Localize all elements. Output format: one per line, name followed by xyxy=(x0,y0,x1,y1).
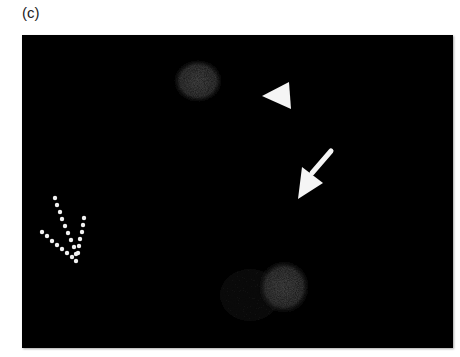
upper-blob xyxy=(174,60,222,102)
micrograph-image xyxy=(22,35,453,348)
triangle-marker-icon xyxy=(262,82,291,109)
solid-arrow-icon xyxy=(298,151,331,199)
dotted-arrow-icon xyxy=(40,196,86,263)
panel-label: (c) xyxy=(22,4,40,21)
lower-blob xyxy=(220,261,309,321)
